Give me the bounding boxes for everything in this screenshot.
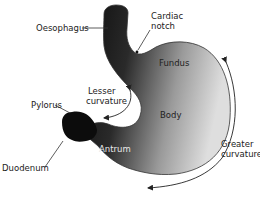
label-pylorus: Pylorus (31, 100, 62, 110)
label-oesophagus: Oesophagus (36, 23, 89, 33)
label-fundus: Fundus (159, 58, 189, 68)
label-cardiac-notch-line1: Cardiac (151, 11, 183, 21)
label-greater-curvature-line1: Greater (221, 139, 253, 149)
label-lesser-curvature-line1: Lesser (88, 86, 115, 96)
cardiac-notch-dot (136, 51, 139, 54)
label-body: Body (160, 110, 181, 120)
label-cardiac-notch-line2: notch (151, 21, 175, 31)
label-lesser-curvature-line2: curvature (86, 96, 127, 106)
pylorus-shape (62, 112, 97, 142)
label-greater-curvature-line2: curvature (221, 149, 260, 159)
cardiac-notch-leader (138, 30, 150, 50)
label-duodenum: Duodenum (2, 163, 49, 173)
label-antrum: Antrum (99, 144, 131, 154)
